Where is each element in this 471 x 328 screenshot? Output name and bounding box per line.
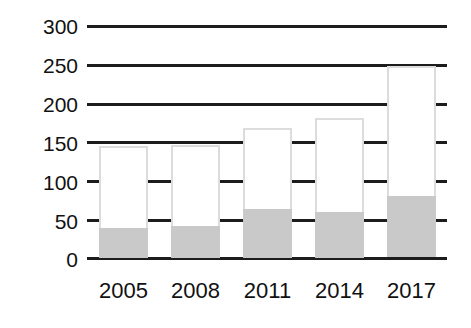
bar-2008 bbox=[171, 145, 220, 258]
bar-segment-upper-2014 bbox=[315, 118, 364, 212]
bar-2017 bbox=[387, 66, 436, 258]
bar-segment-lower-2008 bbox=[171, 226, 220, 258]
x-tick-label-2017: 2017 bbox=[377, 278, 446, 304]
bar-segment-lower-2011 bbox=[243, 209, 292, 258]
bar-segment-upper-2011 bbox=[243, 128, 292, 209]
bar-segment-lower-2005 bbox=[99, 228, 148, 258]
x-tick-label-2005: 2005 bbox=[89, 278, 158, 304]
bar-segment-upper-2017 bbox=[387, 66, 436, 196]
gridline-300 bbox=[87, 25, 447, 28]
y-tick-label-0: 0 bbox=[6, 249, 78, 270]
bar-2005 bbox=[99, 146, 148, 258]
y-tick-label-200: 200 bbox=[6, 94, 78, 115]
y-axis: 300 250 200 150 100 50 0 bbox=[0, 0, 78, 328]
y-tick-label-100: 100 bbox=[6, 172, 78, 193]
x-tick-label-2011: 2011 bbox=[233, 278, 302, 304]
x-tick-label-2008: 2008 bbox=[161, 278, 230, 304]
y-tick-label-250: 250 bbox=[6, 55, 78, 76]
bar-chart: 300 250 200 150 100 50 0 2005 2008 2011 … bbox=[0, 0, 471, 328]
bar-segment-upper-2008 bbox=[171, 145, 220, 226]
bar-2014 bbox=[315, 118, 364, 258]
y-tick-label-300: 300 bbox=[6, 16, 78, 37]
bar-segment-upper-2005 bbox=[99, 146, 148, 228]
x-axis: 2005 2008 2011 2014 2017 bbox=[87, 278, 447, 318]
bar-segment-lower-2017 bbox=[387, 196, 436, 257]
y-tick-label-50: 50 bbox=[6, 211, 78, 232]
bar-segment-lower-2014 bbox=[315, 212, 364, 258]
y-tick-label-150: 150 bbox=[6, 133, 78, 154]
bar-2011 bbox=[243, 128, 292, 258]
x-tick-label-2014: 2014 bbox=[305, 278, 374, 304]
